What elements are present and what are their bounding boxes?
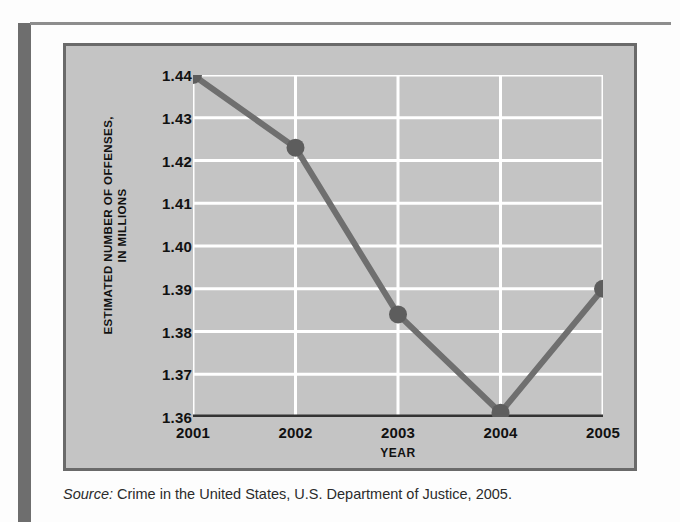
line-chart-svg [193, 75, 603, 417]
y-axis-tick-labels: 1.441.431.421.411.401.391.381.371.36 [126, 46, 192, 468]
x-tick-label: 2005 [586, 424, 620, 441]
y-tick-label: 1.40 [162, 239, 192, 254]
y-tick-label: 1.42 [162, 153, 192, 168]
y-tick-label: 1.39 [162, 281, 192, 296]
x-tick-label: 2002 [278, 424, 312, 441]
page-top-rule [30, 22, 671, 25]
x-axis-tick-labels: 20012002200320042005 [193, 424, 603, 446]
chart-panel: ESTIMATED NUMBER OF OFFENSES, IN MILLION… [63, 43, 637, 471]
x-tick-label: 2004 [483, 424, 517, 441]
page-left-margin-bar [18, 23, 31, 522]
y-tick-label: 1.37 [162, 367, 192, 382]
y-tick-label: 1.44 [162, 68, 192, 83]
x-tick-label: 2003 [381, 424, 415, 441]
page-canvas: ESTIMATED NUMBER OF OFFENSES, IN MILLION… [0, 0, 680, 522]
chart-inner: ESTIMATED NUMBER OF OFFENSES, IN MILLION… [66, 46, 634, 468]
x-tick-label: 2001 [176, 424, 210, 441]
y-tick-label: 1.36 [162, 410, 192, 425]
y-tick-label: 1.41 [162, 196, 192, 211]
y-axis-title-line-1: ESTIMATED NUMBER OF OFFENSES, [101, 100, 115, 350]
y-tick-label: 1.43 [162, 110, 192, 125]
x-axis-title: YEAR [193, 446, 603, 460]
source-caption: Source: Crime in the United States, U.S.… [63, 486, 663, 502]
source-text: Crime in the United States, U.S. Departm… [117, 486, 512, 502]
y-tick-label: 1.38 [162, 324, 192, 339]
plot-area [193, 75, 603, 417]
source-label: Source: [63, 486, 113, 502]
